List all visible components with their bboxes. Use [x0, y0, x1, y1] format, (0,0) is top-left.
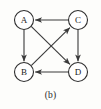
node-b[interactable]: B: [15, 63, 34, 82]
node-a-label: A: [21, 15, 28, 25]
figure-caption: (b): [0, 90, 101, 100]
edge-group: [24, 20, 78, 72]
node-c-label: C: [75, 15, 81, 25]
directed-graph-diagram: A B C D: [0, 0, 101, 92]
node-c[interactable]: C: [69, 11, 88, 30]
edge-a-to-d: [31, 26, 70, 64]
node-b-label: B: [21, 67, 27, 77]
figure-panel: A B C D (b): [0, 0, 101, 109]
node-d-label: D: [75, 67, 82, 77]
node-a[interactable]: A: [15, 11, 34, 30]
edge-b-to-c: [31, 28, 70, 66]
node-d[interactable]: D: [69, 63, 88, 82]
